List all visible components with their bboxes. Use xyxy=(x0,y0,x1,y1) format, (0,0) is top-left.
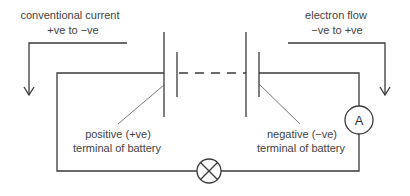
electron-direction-label: −ve to +ve xyxy=(311,24,362,36)
circuit-wires xyxy=(57,73,359,171)
conventional-current-arrow xyxy=(24,43,127,95)
negative-leader-line xyxy=(259,84,300,124)
electron-flow-arrow xyxy=(288,43,390,95)
negative-terminal-label-2: terminal of battery xyxy=(257,142,346,154)
negative-terminal-label: negative (−ve) xyxy=(267,128,337,140)
electron-flow-label: electron flow xyxy=(305,9,367,21)
positive-terminal-label-2: terminal of battery xyxy=(73,142,162,154)
conventional-direction-label: +ve to −ve xyxy=(47,24,98,36)
conventional-current-label: conventional current xyxy=(20,9,119,21)
positive-terminal-label: positive (+ve) xyxy=(85,128,151,140)
battery xyxy=(164,32,259,117)
ammeter: A xyxy=(345,106,373,134)
circuit-diagram: A conventional current +ve to −ve electr… xyxy=(0,0,410,196)
ammeter-symbol: A xyxy=(355,113,364,128)
positive-leader-line xyxy=(118,85,164,124)
lamp xyxy=(197,159,221,183)
